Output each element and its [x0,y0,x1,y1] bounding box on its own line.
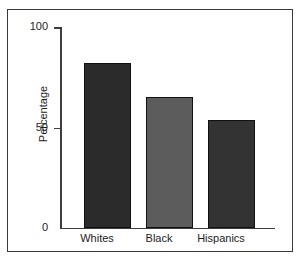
bar-hispanics [208,120,255,229]
y-tick-label-0: 0 [14,222,48,233]
bar-whites [84,63,131,228]
y-tick-label-100: 100 [14,21,48,32]
y-axis-title: Percentage [37,64,49,164]
y-tick-100 [54,27,61,29]
y-tick-50 [54,128,61,130]
plot-area [61,27,274,228]
bar-chart-figure: 100 50 0 Percentage Whites Black Hispani… [0,0,301,261]
x-tick-label-hispanics: Hispanics [184,233,258,244]
bar-black [146,97,193,228]
